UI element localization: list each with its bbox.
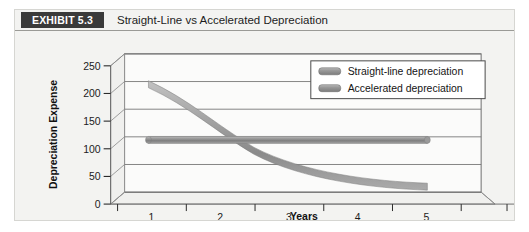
- y-tick-150: 150: [83, 116, 101, 127]
- legend-swatch-straight-line: [319, 68, 341, 75]
- x-tick-5: 5: [423, 212, 429, 220]
- x-axis: [111, 204, 514, 211]
- exhibit-figure: EXHIBIT 5.3 Straight-Line vs Accelerated…: [14, 9, 515, 221]
- x-tick-2: 2: [217, 212, 223, 220]
- legend-label-straight-line: Straight-line depreciation: [348, 66, 464, 77]
- y-tick-labels: 250 200 150 100 50 0: [83, 61, 101, 210]
- y-tick-50: 50: [89, 171, 101, 182]
- y-tick-200: 200: [83, 88, 101, 99]
- x-tick-4: 4: [355, 212, 361, 220]
- depreciation-line-chart: 250 200 150 100 50 0 Depreciation Expens…: [15, 32, 514, 220]
- exhibit-badge: EXHIBIT 5.3: [21, 12, 104, 28]
- plot-left-wall: [111, 54, 125, 204]
- exhibit-title: Straight-Line vs Accelerated Depreciatio…: [117, 12, 328, 28]
- plot-3d-floor: [111, 192, 495, 204]
- y-tick-0: 0: [95, 199, 101, 210]
- y-axis-title: Depreciation Expense: [48, 80, 59, 189]
- x-axis-title: Years: [290, 211, 318, 220]
- exhibit-header: EXHIBIT 5.3 Straight-Line vs Accelerated…: [15, 10, 514, 31]
- chart-plot-area: 250 200 150 100 50 0 Depreciation Expens…: [15, 32, 514, 220]
- legend-swatch-accelerated: [319, 85, 341, 92]
- legend-label-accelerated: Accelerated depreciation: [348, 83, 463, 94]
- y-tick-100: 100: [83, 144, 101, 155]
- y-tick-250: 250: [83, 61, 101, 72]
- series-straight-line-depreciation: [145, 136, 430, 143]
- chart-legend[interactable]: Straight-line depreciation Accelerated d…: [311, 61, 485, 99]
- x-tick-1: 1: [149, 212, 155, 220]
